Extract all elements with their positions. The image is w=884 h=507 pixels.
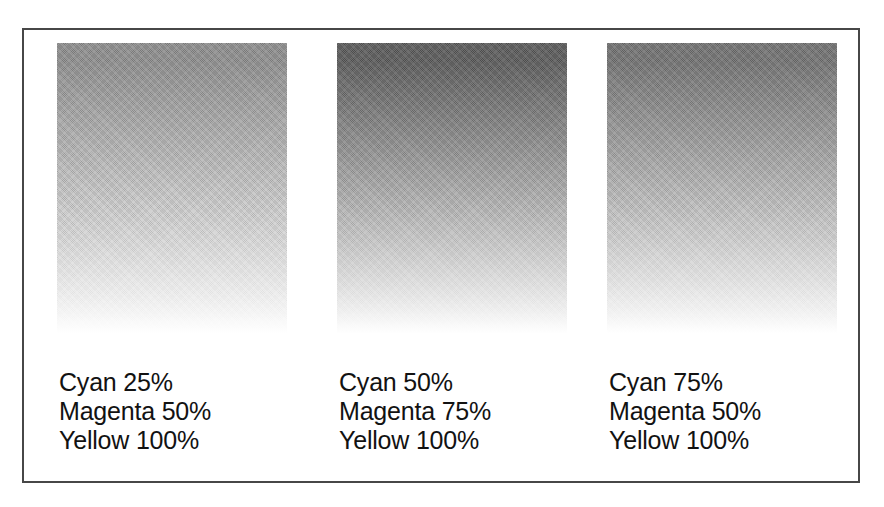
caption-line-cyan: Cyan 25% xyxy=(59,368,307,397)
caption-line-magenta: Magenta 75% xyxy=(339,397,587,426)
caption-line-yellow: Yellow 100% xyxy=(339,426,587,455)
gradient-swatch xyxy=(607,43,837,343)
caption-line-magenta: Magenta 50% xyxy=(59,397,307,426)
caption-line-yellow: Yellow 100% xyxy=(59,426,307,455)
figure-frame: Cyan 25% Magenta 50% Yellow 100% Cyan 50… xyxy=(22,28,860,483)
halftone-texture-overlay xyxy=(607,43,837,343)
swatch-row: Cyan 25% Magenta 50% Yellow 100% Cyan 50… xyxy=(24,30,858,481)
gradient-swatch xyxy=(57,43,287,343)
swatch-column: Cyan 75% Magenta 50% Yellow 100% xyxy=(607,30,837,481)
gradient-swatch xyxy=(337,43,567,343)
figure-root: Cyan 25% Magenta 50% Yellow 100% Cyan 50… xyxy=(0,0,884,507)
caption-line-cyan: Cyan 50% xyxy=(339,368,587,397)
caption-line-magenta: Magenta 50% xyxy=(609,397,857,426)
swatch-caption: Cyan 50% Magenta 75% Yellow 100% xyxy=(339,368,587,455)
swatch-caption: Cyan 25% Magenta 50% Yellow 100% xyxy=(59,368,307,455)
halftone-texture-overlay xyxy=(57,43,287,343)
caption-line-cyan: Cyan 75% xyxy=(609,368,857,397)
caption-line-yellow: Yellow 100% xyxy=(609,426,857,455)
swatch-column: Cyan 50% Magenta 75% Yellow 100% xyxy=(337,30,567,481)
halftone-texture-overlay xyxy=(337,43,567,343)
swatch-column: Cyan 25% Magenta 50% Yellow 100% xyxy=(57,30,287,481)
swatch-caption: Cyan 75% Magenta 50% Yellow 100% xyxy=(609,368,857,455)
